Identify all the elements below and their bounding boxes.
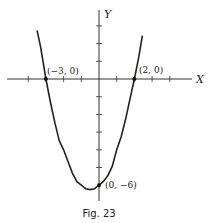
parabola-curve: [37, 30, 142, 189]
label-point-0-minus6: (0, −6): [105, 180, 137, 190]
x-axis-label: X: [195, 73, 205, 86]
figure-caption: Fig. 23: [82, 208, 115, 219]
point-minus3-0: [44, 77, 48, 81]
label-point-minus3-0: (−3, 0): [47, 66, 79, 76]
point-2-0: [132, 77, 136, 81]
parabola-figure: (−3, 0) (2, 0) (0, −6) X Y Fig. 23: [0, 0, 209, 223]
y-axis-label: Y: [104, 8, 113, 21]
point-0-minus6: [97, 183, 101, 187]
label-point-2-0: (2, 0): [139, 65, 163, 75]
